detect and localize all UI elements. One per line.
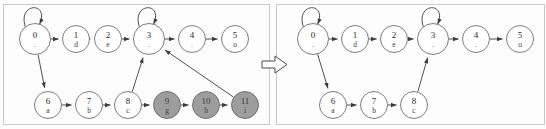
node-7[interactable]: 7b (361, 92, 388, 119)
node-sub-label-4: . (191, 40, 193, 49)
node-sub-label-1: d (74, 40, 78, 49)
node-2[interactable]: 2e (381, 26, 408, 53)
right-panel-frame: 0.1d2e3.4.5o6a7b8c (276, 4, 545, 125)
node-10[interactable]: 10h (193, 92, 220, 119)
node-sub-label-3: . (432, 40, 434, 49)
right-panel-svg: 0.1d2e3.4.5o6a7b8c (277, 5, 544, 124)
node-id-label-3: 3 (147, 30, 152, 40)
node-id-label-3: 3 (431, 30, 436, 40)
node-id-label-7: 7 (87, 96, 92, 106)
node-id-label-2: 2 (106, 30, 111, 40)
node-9[interactable]: 9g (154, 92, 181, 119)
edge-8-to-3 (132, 58, 143, 92)
node-2[interactable]: 2e (95, 26, 122, 53)
node-3[interactable]: 3. (134, 8, 165, 55)
edge-0-to-6 (318, 54, 328, 88)
node-id-label-4: 4 (190, 30, 195, 40)
node-id-label-0: 0 (33, 30, 38, 40)
node-1[interactable]: 1d (63, 26, 90, 53)
node-id-label-1: 1 (74, 30, 79, 40)
node-4[interactable]: 4. (179, 26, 206, 53)
edge-0-to-6 (38, 55, 45, 88)
node-0[interactable]: 0. (298, 8, 329, 55)
node-1[interactable]: 1d (342, 26, 369, 53)
node-id-label-11: 11 (241, 96, 250, 106)
node-sub-label-9: g (165, 106, 169, 115)
node-sub-label-4: . (475, 40, 477, 49)
node-id-label-4: 4 (474, 30, 479, 40)
node-11[interactable]: 11i (232, 92, 259, 119)
node-sub-label-7: b (372, 106, 376, 115)
node-id-label-6: 6 (331, 96, 336, 106)
node-6[interactable]: 6a (35, 92, 62, 119)
graph-before: 0.1d2e3.4.5o6a7b8c9g10h11i (4, 5, 269, 124)
node-8[interactable]: 8c (115, 92, 142, 119)
node-sub-label-10: h (204, 106, 208, 115)
node-sub-label-5: o (233, 40, 237, 49)
left-panel-svg: 0.1d2e3.4.5o6a7b8c9g10h11i (4, 5, 269, 124)
node-id-label-7: 7 (372, 96, 377, 106)
node-7[interactable]: 7b (76, 92, 103, 119)
node-8[interactable]: 8c (401, 92, 428, 119)
node-sub-label-0: . (312, 40, 314, 49)
edge-8-to-3 (418, 58, 428, 92)
node-sub-label-11: i (244, 106, 246, 115)
node-id-label-6: 6 (46, 96, 51, 106)
node-5[interactable]: 5o (507, 26, 534, 53)
node-id-label-2: 2 (392, 30, 397, 40)
diagram-canvas: 0.1d2e3.4.5o6a7b8c9g10h11i 0.1d2e3.4.5o6… (0, 0, 546, 129)
node-4[interactable]: 4. (463, 26, 490, 53)
node-id-label-1: 1 (353, 30, 358, 40)
node-id-label-5: 5 (233, 30, 238, 40)
node-id-label-9: 9 (165, 96, 170, 106)
node-3[interactable]: 3. (418, 8, 449, 55)
node-sub-label-7: b (87, 106, 91, 115)
graph-after: 0.1d2e3.4.5o6a7b8c (277, 5, 544, 124)
node-5[interactable]: 5o (222, 26, 249, 53)
edge-11-to-3 (165, 50, 233, 97)
node-sub-label-1: d (353, 40, 357, 49)
node-id-label-0: 0 (311, 30, 316, 40)
node-id-label-5: 5 (518, 30, 523, 40)
node-id-label-10: 10 (202, 96, 212, 106)
node-id-label-8: 8 (412, 96, 417, 106)
node-sub-label-5: o (518, 40, 522, 49)
node-sub-label-0: . (34, 40, 36, 49)
right-arrow-icon (262, 55, 288, 77)
left-panel-frame: 0.1d2e3.4.5o6a7b8c9g10h11i (3, 4, 270, 125)
node-6[interactable]: 6a (320, 92, 347, 119)
node-0[interactable]: 0. (20, 8, 51, 55)
node-sub-label-3: . (148, 40, 150, 49)
node-id-label-8: 8 (126, 96, 131, 106)
